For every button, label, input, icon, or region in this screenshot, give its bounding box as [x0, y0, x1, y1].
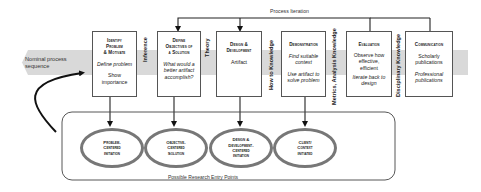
connector-disciplinary-knowledge: Disciplinary Knowledge	[395, 34, 401, 97]
title-line: Development	[217, 48, 261, 54]
desc-line: accomplish?	[158, 74, 200, 80]
connector-metrics-analysis-knowledge: Metrics, Analysis Knowledge	[331, 28, 337, 105]
connector-how-to-knowledge: How to Knowledge	[268, 40, 274, 90]
desc-line: publications	[406, 77, 452, 83]
desc-line: design	[347, 80, 391, 86]
connector-theory: Theory	[204, 38, 210, 57]
entry-objective-centered: Objective-CenteredSolution	[144, 128, 208, 168]
entry-line: Initiation	[228, 153, 253, 158]
connector-inference: Inference	[142, 37, 148, 62]
entry-line: Initiated	[297, 151, 312, 156]
desc-line: efficient	[347, 65, 391, 71]
activity-desc: Artifact	[217, 59, 261, 65]
activity-demonstration: Demonstration Find suitablecontext Use a…	[281, 31, 326, 97]
desc-line: solve problem	[282, 77, 325, 83]
activity-identify-problem: IdentifyProblem& Motivate Define problem…	[92, 31, 137, 97]
band-label-line: Nominal process	[25, 56, 67, 63]
entry-line: Context	[297, 145, 312, 150]
entry-problem-centered: Problem-CenteredInitiation	[80, 128, 144, 168]
entry-design-development-centered: Design &Development-CenteredInitiation	[209, 128, 273, 168]
entry-line: Centered	[103, 145, 121, 150]
entry-line: Initiation	[103, 151, 121, 156]
desc-line: better artifact	[158, 67, 200, 73]
nominal-process-label: Nominal process sequence	[25, 56, 67, 69]
desc-line: importance	[93, 79, 136, 85]
process-iteration-label: Process Iteration	[270, 8, 309, 14]
entry-client-context-initiated: Client/ContextInitiated	[273, 128, 337, 168]
iteration-line	[178, 18, 370, 31]
title-line: Evaluation	[347, 42, 391, 48]
desc-line: Use artifact to	[282, 71, 325, 77]
title-line: Communication	[406, 42, 452, 48]
title-line: a Solution	[158, 50, 200, 56]
activity-design-development: Design &Development Artifact	[216, 31, 262, 97]
entry-points-caption: Possible Research Entry Points	[168, 174, 238, 180]
entry-curve-arrow	[35, 73, 82, 132]
title-line: Demonstration	[282, 42, 325, 48]
entry-line: Solution	[166, 151, 186, 156]
entry-line: Centered	[166, 145, 186, 150]
desc-line: publications	[406, 59, 452, 65]
activity-define-objectives: DefineObjectives ofa Solution What would…	[157, 31, 201, 97]
activity-communication: Communication Scholarlypublications Prof…	[405, 31, 453, 97]
desc-line: context	[282, 59, 325, 65]
title-line: & Motivate	[93, 50, 136, 56]
activity-evaluation: Evaluation Observe howeffective,efficien…	[346, 31, 392, 97]
activity-desc: Define problem	[93, 61, 136, 67]
band-label-line: sequence	[25, 63, 67, 70]
